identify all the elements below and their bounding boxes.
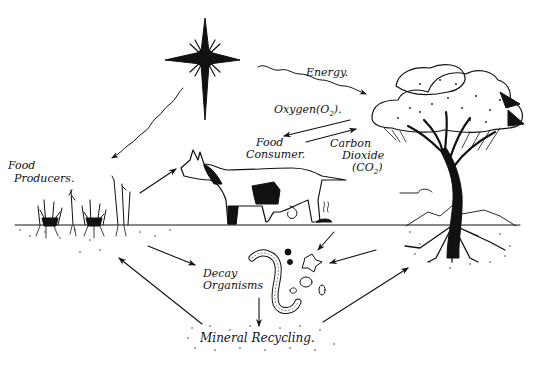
oxygen-label: Oxygen(O2).	[274, 104, 342, 120]
carbon-dioxide-line2: Dioxide	[342, 150, 384, 161]
oxygen-formula: (O	[316, 103, 329, 116]
oxygen-close: ).	[334, 103, 342, 116]
tree-to-decay-arrow	[330, 250, 376, 263]
mineral-to-tree-arrow	[323, 268, 408, 322]
food-consumer-line1: Food	[256, 137, 305, 148]
soil-stipple	[19, 229, 510, 268]
mineral-to-producers-arrow	[119, 258, 202, 324]
food-producers-plants	[36, 176, 130, 238]
co2-close: )	[378, 161, 382, 174]
food-consumer-cow	[181, 150, 346, 224]
oxygen-text: Oxygen	[274, 103, 316, 116]
decay-organisms-line1: Decay	[203, 268, 263, 279]
producers-to-consumer-arrow	[140, 169, 176, 193]
consumer-to-decay-arrow	[318, 232, 334, 250]
food-consumer-label: Food Consumer.	[246, 137, 305, 160]
ecosystem-diagram	[0, 0, 536, 366]
mineral-recycling-label: Mineral Recycling.	[200, 333, 315, 344]
cloud	[400, 189, 432, 193]
producers-to-decay-arrow	[148, 246, 195, 265]
food-producers-line1: Food	[8, 160, 74, 171]
food-producers-line2: Producers.	[14, 173, 74, 184]
carbon-dioxide-line1: Carbon	[330, 138, 384, 149]
energy-label: Energy.	[306, 67, 348, 78]
decay-organisms-label: Decay Organisms	[203, 268, 263, 291]
carbon-dioxide-label: Carbon Dioxide (CO2)	[330, 138, 384, 178]
energy-to-producers-arrow	[112, 88, 183, 158]
decay-organisms-line2: Organisms	[203, 280, 263, 291]
co2-formula-text: (CO	[352, 161, 374, 174]
food-producers-label: Food Producers.	[8, 160, 74, 184]
carbon-dioxide-formula: (CO2)	[352, 162, 384, 178]
food-consumer-line2: Consumer.	[246, 149, 305, 160]
sun-star-icon	[165, 18, 240, 120]
